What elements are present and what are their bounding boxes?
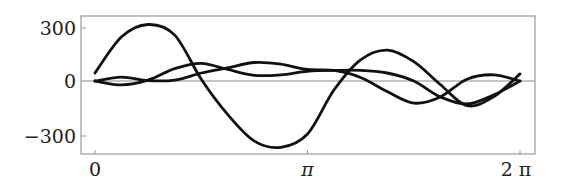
series-layer [95, 24, 520, 147]
series-line-3 [95, 62, 520, 103]
x-tick-label-2pi: 2 π [501, 158, 532, 180]
x-tick-label-pi: π [300, 158, 314, 180]
line-chart: 300 0 −300 0 π 2 π [0, 0, 565, 184]
y-tick-label-neg300: −300 [24, 125, 76, 147]
y-tick-label-300: 300 [40, 17, 76, 39]
x-tick-label-0: 0 [89, 158, 101, 180]
y-tick-label-0: 0 [64, 70, 76, 92]
